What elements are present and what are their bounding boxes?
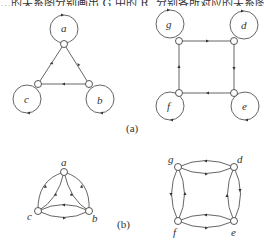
arrow-icon — [204, 213, 207, 216]
node-c — [35, 208, 42, 215]
edge-c-b-lower — [38, 211, 89, 218]
arrow-icon — [62, 82, 65, 85]
label-a: a — [61, 156, 67, 168]
label-g: g — [168, 153, 174, 165]
edge-g-f-outer — [172, 167, 179, 221]
node-e — [231, 90, 238, 97]
arrow-icon — [62, 203, 65, 206]
arrow-icon — [27, 112, 30, 115]
label-b: b — [92, 212, 98, 224]
arrow-icon — [169, 193, 172, 196]
arrow-icon — [204, 159, 207, 162]
arrow-icon — [238, 189, 241, 192]
edge-f-g-inner — [178, 167, 185, 221]
node-g — [175, 164, 182, 171]
arrow-icon — [61, 14, 64, 17]
label-c: c — [24, 93, 29, 105]
label-c: c — [27, 210, 32, 222]
label-f: f — [173, 226, 178, 238]
label-f: f — [167, 100, 172, 112]
graph-b1: a c b — [27, 156, 98, 224]
node-a — [61, 169, 68, 176]
edge-f-e-lower — [178, 221, 234, 228]
arrow-icon — [63, 216, 66, 219]
label-e: e — [231, 226, 236, 238]
edge-d-e-outer — [234, 167, 241, 221]
caption-a: (a) — [126, 122, 139, 135]
edge-a-c-outer — [38, 172, 64, 211]
edge-a-b — [64, 44, 89, 84]
arrow-icon — [80, 185, 83, 188]
edge-e-d-inner — [228, 167, 235, 221]
caption-b: (b) — [117, 218, 130, 231]
arrow-icon — [232, 67, 235, 70]
node-d — [231, 38, 238, 45]
arrow-icon — [170, 119, 173, 122]
label-d: d — [237, 153, 243, 165]
node-b — [86, 81, 93, 88]
arrow-icon — [206, 39, 209, 42]
arrow-icon — [205, 172, 208, 175]
node-e — [231, 218, 238, 225]
arrow-icon — [225, 194, 228, 197]
node-c — [35, 81, 42, 88]
arrow-icon — [241, 10, 244, 13]
label-b: b — [97, 94, 103, 106]
label-d: d — [241, 19, 247, 31]
graph-a2: g d e f — [156, 9, 259, 122]
node-f — [176, 90, 183, 97]
arrow-icon — [167, 9, 170, 12]
arrow-icon — [183, 192, 186, 195]
label-e: e — [242, 100, 247, 112]
edge-b-a-outer — [64, 172, 89, 211]
node-g — [176, 38, 183, 45]
arrow-icon — [205, 226, 208, 229]
graph-b2: g d e f — [168, 153, 243, 238]
node-a — [61, 41, 68, 48]
label-a: a — [61, 22, 67, 34]
arrow-icon — [245, 119, 248, 122]
node-f — [175, 218, 182, 225]
arrow-icon — [206, 91, 209, 94]
edge-g-d-lower — [178, 167, 234, 174]
arrow-icon — [177, 65, 180, 68]
arrow-icon — [100, 112, 103, 115]
relation-graphs-figure: a c b g d e f (a) — [0, 0, 264, 251]
label-g: g — [166, 18, 172, 30]
graph-a1: a c b — [13, 14, 114, 115]
